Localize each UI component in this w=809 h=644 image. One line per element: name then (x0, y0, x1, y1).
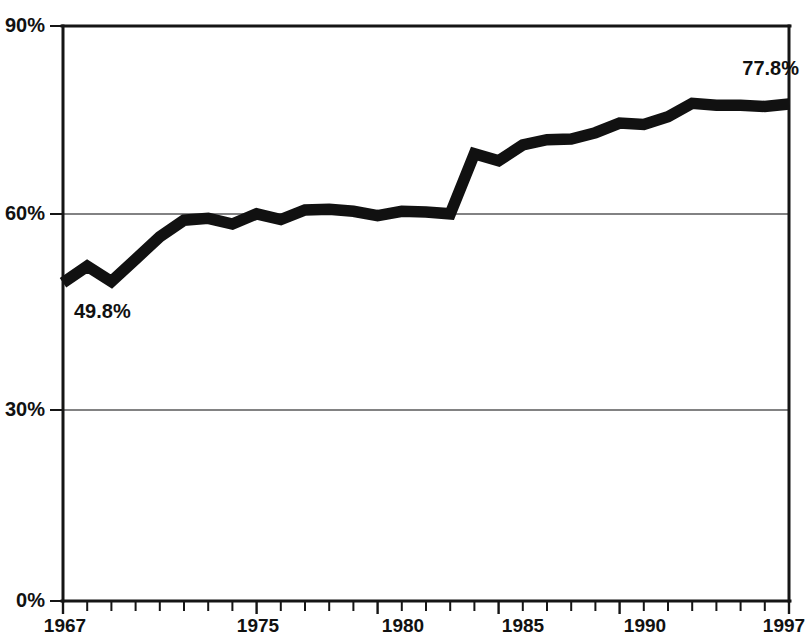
x-tick-label-1990: 1990 (624, 615, 666, 636)
y-tick-marks (50, 26, 63, 601)
x-tick-marks (63, 601, 789, 614)
chart-canvas: 90% 60% 30% 0% 1967 1975 1980 1985 1990 … (0, 0, 809, 644)
y-tick-label-90: 90% (5, 14, 45, 36)
y-axis-labels: 90% 60% 30% 0% (5, 14, 45, 611)
grid-lines (62, 214, 790, 410)
start-value-label: 49.8% (74, 300, 131, 322)
x-tick-label-1975: 1975 (237, 615, 280, 636)
y-tick-label-30: 30% (5, 398, 45, 420)
data-series-line (63, 103, 789, 283)
x-tick-label-1985: 1985 (502, 615, 545, 636)
end-value-label: 77.8% (742, 57, 799, 79)
y-tick-label-60: 60% (5, 202, 45, 224)
x-tick-label-1967: 1967 (44, 615, 86, 636)
line-chart-figure: 90% 60% 30% 0% 1967 1975 1980 1985 1990 … (0, 0, 809, 644)
y-tick-label-0: 0% (16, 589, 45, 611)
x-tick-label-1980: 1980 (382, 615, 424, 636)
x-tick-label-1997: 1997 (763, 615, 805, 636)
x-axis-labels: 1967 1975 1980 1985 1990 1997 (44, 615, 805, 636)
